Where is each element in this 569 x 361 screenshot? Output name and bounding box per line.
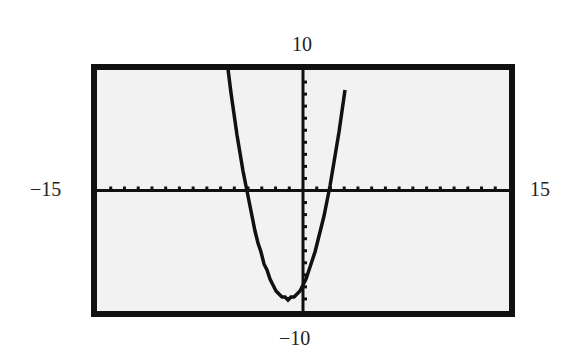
graph-window [0,0,569,361]
